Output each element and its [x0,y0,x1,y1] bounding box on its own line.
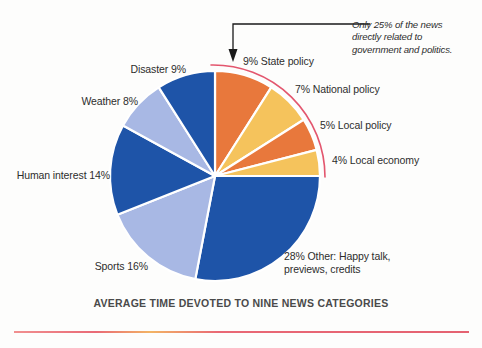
annotation-arrow-line [233,24,370,50]
label-human-interest: Human interest 14% [4,169,110,182]
bottom-decorative-rule [14,331,469,333]
label-national-policy: 7% National policy [295,83,380,96]
label-other: 28% Other: Happy talk, previews, credits [284,250,390,276]
label-local-economy: 4% Local economy [332,154,419,167]
annotation-text: Only 25% of the news directly related to… [352,19,478,56]
label-state-policy: 9% State policy [243,55,314,68]
label-sports: Sports 16% [20,260,148,273]
annotation-arrow-head-icon [229,49,238,62]
chart-title: AVERAGE TIME DEVOTED TO NINE NEWS CATEGO… [0,297,482,309]
label-local-policy: 5% Local policy [320,119,391,132]
label-weather: Weather 8% [22,95,138,108]
chart-canvas: 9% State policy 7% National policy 5% Lo… [0,0,482,348]
label-disaster: Disaster 9% [50,63,186,76]
